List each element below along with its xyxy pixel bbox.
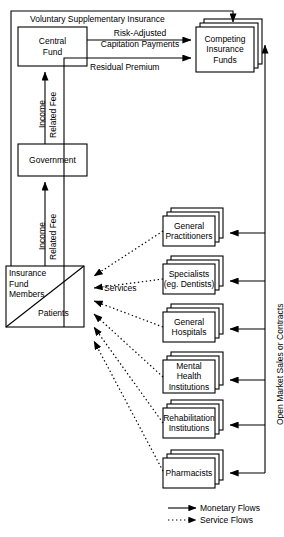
provider-box-1 bbox=[163, 264, 215, 294]
flow-label-voluntary: Voluntary Supplementary Insurance bbox=[30, 14, 165, 24]
flow-label-income-1: Income bbox=[37, 100, 47, 128]
flow-label-income-2: Income bbox=[37, 222, 47, 250]
provider-box-3 bbox=[163, 360, 215, 393]
provider-box-2 bbox=[163, 312, 215, 342]
flow-label-related-fee-2: Related Fee bbox=[48, 214, 58, 260]
flow-diagram: Central Fund Government Competing Insura… bbox=[0, 0, 284, 537]
flow-label-capitation: Capitation Payments bbox=[86, 39, 194, 49]
flow-label-risk-adjusted: Risk-Adjusted bbox=[94, 28, 186, 38]
service-flow-provider-2 bbox=[94, 301, 163, 327]
service-flow-provider-3 bbox=[94, 314, 163, 377]
service-flow-provider-0 bbox=[94, 231, 163, 276]
flow-label-open-market: Open Market Sales or Contracts bbox=[275, 304, 284, 425]
flow-label-related-fee-1: Related Fee bbox=[48, 92, 58, 138]
patients-label: Patients bbox=[38, 308, 69, 318]
provider-box-4 bbox=[163, 408, 215, 438]
service-flow-provider-4 bbox=[94, 327, 163, 423]
service-flow-provider-5 bbox=[94, 341, 163, 471]
legend-label-service: Service Flows bbox=[200, 515, 253, 525]
provider-box-5 bbox=[163, 458, 215, 488]
legend-glyphs bbox=[168, 508, 196, 520]
competing-funds-box bbox=[196, 27, 254, 72]
service-flow-lines bbox=[94, 231, 163, 471]
flow-label-services: Services bbox=[104, 283, 137, 293]
provider-shapes bbox=[163, 208, 223, 488]
members-label: Insurance Fund Members bbox=[9, 268, 69, 300]
provider-box-0 bbox=[163, 216, 215, 246]
central-fund-box bbox=[18, 27, 87, 66]
flow-label-residual-premium: Residual Premium bbox=[90, 62, 159, 72]
government-box bbox=[18, 144, 87, 176]
legend-label-monetary: Monetary Flows bbox=[200, 503, 260, 513]
